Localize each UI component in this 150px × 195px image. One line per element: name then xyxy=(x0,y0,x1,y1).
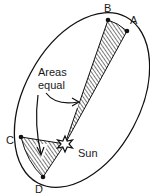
sector-ab xyxy=(65,20,127,144)
annotation-line2: equal xyxy=(38,79,65,91)
point-d xyxy=(41,175,46,180)
annotation-line1: Areas xyxy=(38,66,67,78)
label-a: A xyxy=(130,14,138,26)
label-sun: Sun xyxy=(78,147,98,159)
point-a xyxy=(125,29,130,34)
kepler-diagram: A B C D Sun Areas equal xyxy=(0,0,150,195)
label-d: D xyxy=(35,183,43,195)
point-c xyxy=(19,135,24,140)
point-b xyxy=(106,18,111,23)
label-c: C xyxy=(6,134,14,146)
label-b: B xyxy=(104,2,111,14)
